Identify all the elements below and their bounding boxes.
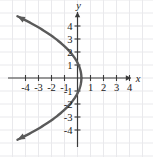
y-tick-label: -2 — [64, 99, 73, 110]
y-tick-label: 4 — [67, 21, 73, 32]
y-tick-label: -4 — [64, 125, 73, 136]
coordinate-plane-graph: -4-3-2-112344321-1-2-3-4 x y — [0, 0, 153, 157]
x-tick-label: -3 — [34, 82, 43, 93]
y-tick-label: 1 — [67, 60, 72, 71]
x-tick-label: -4 — [21, 82, 30, 93]
y-tick-label: 3 — [67, 34, 72, 45]
x-axis-label: x — [135, 73, 141, 84]
x-tick-label: 1 — [88, 82, 93, 93]
parabola-figure: -4-3-2-112344321-1-2-3-4 x y — [0, 0, 153, 157]
y-tick-label: -3 — [64, 112, 73, 123]
x-tick-label: 4 — [127, 82, 133, 93]
x-tick-label: 2 — [101, 82, 106, 93]
x-tick-label: -2 — [47, 82, 56, 93]
y-axis-label: y — [75, 0, 81, 11]
y-tick-label: 2 — [67, 47, 72, 58]
x-tick-label: 3 — [114, 82, 119, 93]
y-tick-label: -1 — [64, 86, 73, 97]
